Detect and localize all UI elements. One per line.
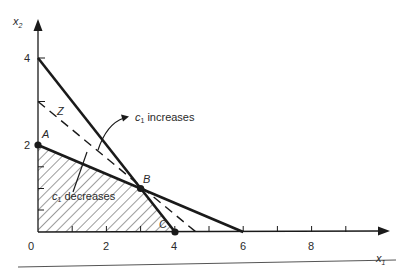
- x-axis-label: x1: [375, 252, 386, 266]
- point-a-marker: [34, 141, 41, 148]
- x-tick-label-2: 2: [103, 240, 109, 252]
- y-tick-label-2: 2: [24, 139, 30, 151]
- lp-diagram: x2 x1 0 2 4 6 8 2 4 A B C Z c1increases …: [0, 0, 398, 270]
- x-axis-arrow-icon: [378, 227, 390, 236]
- x-tick-label-8: 8: [308, 240, 314, 252]
- x-tick-label-4: 4: [171, 240, 177, 252]
- point-b-marker: [137, 185, 144, 192]
- c1-increases-label: c1increases: [135, 111, 195, 124]
- point-c-label: C: [159, 218, 167, 230]
- y-axis-label: x2: [12, 15, 23, 29]
- objective-z-label: Z: [56, 105, 65, 117]
- point-a-label: A: [41, 128, 49, 140]
- origin-label: 0: [28, 240, 34, 252]
- point-b-label: B: [143, 173, 150, 185]
- bottom-rule: [18, 260, 396, 267]
- x-tick-label-6: 6: [240, 240, 246, 252]
- y-axis-arrow-icon: [34, 19, 43, 31]
- increases-arrow-icon: [98, 118, 124, 150]
- y-tick-label-4: 4: [24, 52, 30, 64]
- point-c-marker: [171, 228, 178, 235]
